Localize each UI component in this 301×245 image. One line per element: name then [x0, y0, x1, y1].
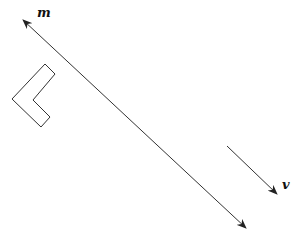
line-m-label: m	[37, 5, 51, 20]
vector-v	[227, 146, 277, 194]
diagram-svg: m v	[0, 0, 301, 245]
line-m	[23, 20, 246, 228]
l-shape-figure	[12, 64, 55, 127]
diagram-canvas: m v	[0, 0, 301, 245]
vector-v-label: v	[282, 177, 290, 192]
